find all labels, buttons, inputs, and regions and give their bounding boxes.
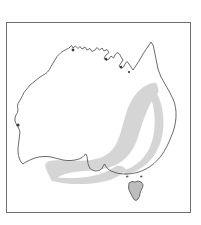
distribution-map-figure — [0, 0, 201, 225]
map-border — [6, 22, 191, 213]
coastal-mark-north-west — [72, 49, 75, 52]
coastal-mark-cape-york — [128, 71, 130, 73]
australia-map-svg — [7, 23, 190, 212]
tasmania-islet-west — [126, 176, 129, 178]
coastal-mark-north — [105, 58, 108, 61]
tasmania-islet-east — [140, 176, 143, 178]
tasmania-outline — [129, 181, 144, 201]
tasmania — [126, 176, 143, 201]
coastal-mark-west — [16, 123, 19, 126]
mainland-australia-outline — [15, 42, 176, 174]
mainland-australia — [15, 42, 176, 174]
coastal-mark-gulf — [120, 66, 122, 68]
